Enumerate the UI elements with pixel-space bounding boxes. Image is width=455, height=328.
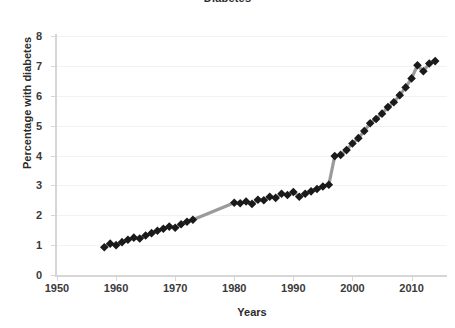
x-axis-tick bbox=[412, 277, 413, 281]
y-axis-tick-label: 1 bbox=[0, 239, 42, 251]
x-axis-tick-label: 1960 bbox=[91, 282, 141, 294]
x-axis-tick-label: 1980 bbox=[209, 282, 259, 294]
y-axis-tick bbox=[51, 36, 56, 37]
x-axis-tick-label: 1950 bbox=[32, 282, 82, 294]
x-axis-title: Years bbox=[57, 306, 447, 318]
y-axis-tick-label: 2 bbox=[0, 209, 42, 221]
y-axis-tick-label: 0 bbox=[0, 269, 42, 281]
x-axis-tick bbox=[234, 277, 235, 281]
y-axis-tick-label: 6 bbox=[0, 90, 42, 102]
y-axis-tick-label: 7 bbox=[0, 60, 42, 72]
y-axis-tick bbox=[51, 156, 56, 157]
y-axis-tick-label: 8 bbox=[0, 30, 42, 42]
y-axis-tick bbox=[51, 126, 56, 127]
y-axis-tick-label: 3 bbox=[0, 179, 42, 191]
y-axis-tick bbox=[51, 245, 56, 246]
x-axis-tick bbox=[57, 277, 58, 281]
x-axis-tick-label: 1970 bbox=[150, 282, 200, 294]
y-axis-tick-label: 5 bbox=[0, 120, 42, 132]
x-axis-tick bbox=[116, 277, 117, 281]
x-axis-tick-label: 2010 bbox=[387, 282, 437, 294]
x-axis-tick bbox=[352, 277, 353, 281]
y-axis-tick bbox=[51, 96, 56, 97]
series-line bbox=[104, 61, 435, 247]
y-axis-tick bbox=[51, 275, 56, 276]
x-axis-tick bbox=[175, 277, 176, 281]
x-axis-tick-label: 2000 bbox=[327, 282, 377, 294]
series-layer bbox=[0, 0, 455, 328]
y-axis-tick-label: 4 bbox=[0, 150, 42, 162]
x-axis-tick bbox=[293, 277, 294, 281]
x-axis-tick-label: 1990 bbox=[268, 282, 318, 294]
diabetes-line-chart: Diabetes Percentage with diabetes Years … bbox=[0, 0, 455, 328]
y-axis-tick bbox=[51, 185, 56, 186]
y-axis-tick bbox=[51, 66, 56, 67]
y-axis-tick bbox=[51, 215, 56, 216]
